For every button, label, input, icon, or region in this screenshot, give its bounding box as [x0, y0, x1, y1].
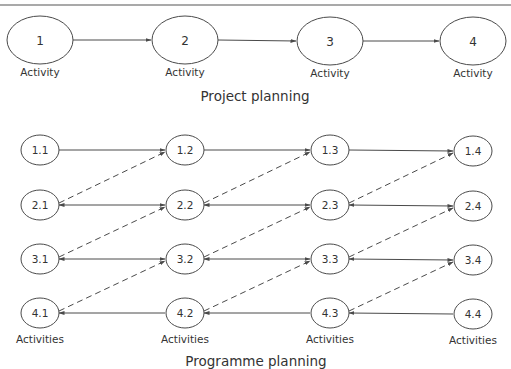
programme-node-3-3: 3.3 — [311, 244, 349, 274]
node-label: Activity — [453, 67, 492, 79]
programme-node-2-1: 2.1 — [21, 190, 59, 220]
programme-node-3-1: 3.1 — [21, 244, 59, 274]
programme-node-2-3: 2.3 — [311, 190, 349, 220]
programme-node-2-4: 2.4 — [454, 191, 492, 221]
column-label-1: Activities — [16, 333, 64, 345]
svg-text:2.2: 2.2 — [177, 199, 194, 211]
node-label: Activity — [310, 67, 349, 79]
programme-node-4-1: 4.1 — [21, 298, 59, 328]
node-id: 1 — [36, 34, 44, 48]
programme-node-1-3: 1.3 — [311, 135, 349, 165]
svg-text:1.2: 1.2 — [177, 144, 194, 156]
project-planning-title: Project planning — [200, 88, 309, 104]
svg-text:1.3: 1.3 — [322, 144, 339, 156]
project-planning-diagram: 1 Activity 2 Activity 3 Activity 4 Activ… — [7, 16, 506, 104]
project-node-1: 1 Activity — [7, 16, 73, 78]
svg-text:3.3: 3.3 — [322, 253, 339, 265]
programme-node-3-4: 3.4 — [454, 245, 492, 275]
programme-node-2-2: 2.2 — [166, 190, 204, 220]
svg-text:4.2: 4.2 — [177, 307, 194, 319]
svg-text:1.4: 1.4 — [465, 145, 482, 157]
svg-text:4.4: 4.4 — [465, 308, 482, 320]
planning-diagram: 1 Activity 2 Activity 3 Activity 4 Activ… — [0, 0, 511, 369]
edge-2-3 — [218, 40, 296, 41]
svg-text:3.4: 3.4 — [465, 254, 482, 266]
node-id: 2 — [181, 34, 189, 48]
column-label-3: Activities — [306, 333, 354, 345]
svg-text:4.1: 4.1 — [32, 307, 49, 319]
svg-text:3.1: 3.1 — [32, 253, 49, 265]
svg-text:2.1: 2.1 — [32, 199, 49, 211]
programme-planning-diagram: 1.1 1.2 1.3 1.4 2.1 2.2 2.3 2.4 3.1 3.2 … — [16, 135, 497, 369]
svg-text:2.4: 2.4 — [465, 200, 482, 212]
programme-node-1-2: 1.2 — [166, 135, 204, 165]
project-node-2: 2 Activity — [152, 16, 218, 78]
programme-node-3-2: 3.2 — [166, 244, 204, 274]
node-label: Activity — [165, 66, 204, 78]
programme-node-4-3: 4.3 — [311, 298, 349, 328]
programme-node-1-4: 1.4 — [454, 136, 492, 166]
programme-node-4-2: 4.2 — [166, 298, 204, 328]
column-label-4: Activities — [449, 334, 497, 346]
node-id: 4 — [469, 35, 477, 49]
node-id: 3 — [326, 35, 334, 49]
programme-node-4-4: 4.4 — [454, 299, 492, 329]
svg-text:1.1: 1.1 — [32, 144, 49, 156]
programme-planning-title: Programme planning — [185, 353, 326, 369]
svg-text:3.2: 3.2 — [177, 253, 194, 265]
project-node-3: 3 Activity — [297, 17, 363, 79]
column-label-2: Activities — [161, 333, 209, 345]
svg-text:2.3: 2.3 — [322, 199, 339, 211]
svg-text:4.3: 4.3 — [322, 307, 339, 319]
programme-dashed-edges — [59, 152, 453, 311]
node-label: Activity — [20, 66, 59, 78]
project-node-4: 4 Activity — [440, 17, 506, 79]
project-edges — [73, 40, 439, 41]
programme-node-1-1: 1.1 — [21, 135, 59, 165]
